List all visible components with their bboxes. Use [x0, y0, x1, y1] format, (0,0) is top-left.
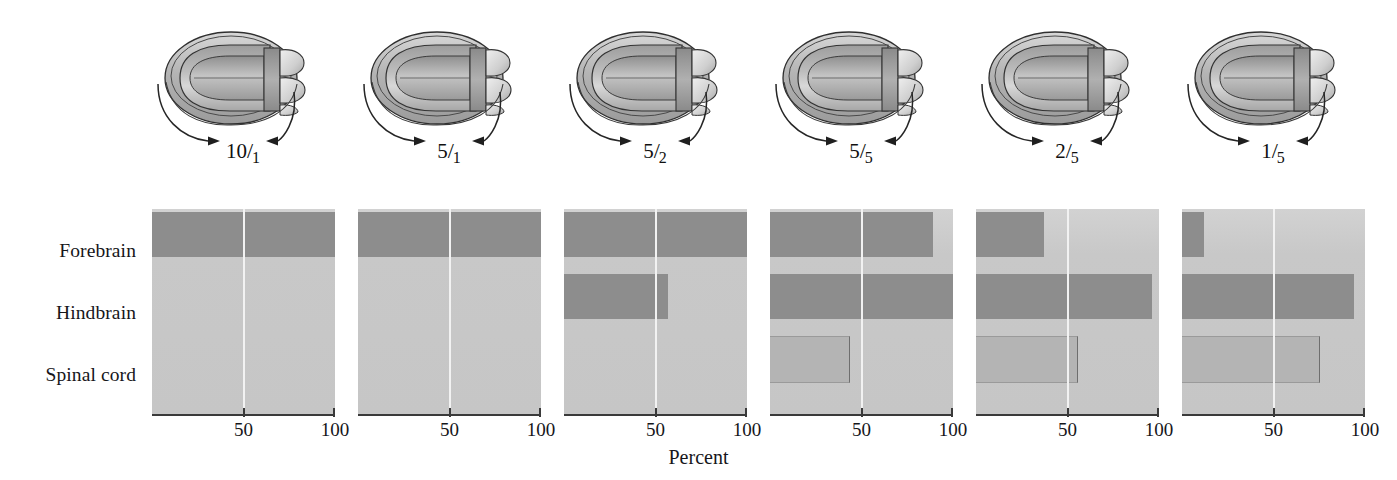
- x-axis-tick-label-50: 50: [852, 420, 871, 439]
- x-axis-tick-100: [539, 408, 541, 417]
- x-axis-tick-50: [861, 408, 863, 417]
- panel-1-over-5: 1/550100: [1182, 0, 1365, 480]
- gridline-50: [861, 209, 863, 414]
- x-axis-tick-label-100: 100: [1145, 420, 1174, 439]
- bar-forebrain: [1182, 212, 1204, 257]
- row-label-forebrain: Forebrain: [59, 241, 136, 261]
- row-label-hindbrain: Hindbrain: [56, 303, 136, 323]
- bar-chart-panel: [976, 209, 1159, 414]
- bar-chart-panel: [1182, 209, 1365, 414]
- x-axis-tick-50: [449, 408, 451, 417]
- embryo-diagram-svg: [152, 22, 335, 152]
- x-axis-tick-label-100: 100: [733, 420, 762, 439]
- panel-5-over-5: 5/550100: [770, 0, 953, 480]
- row-label-group: Forebrain Hindbrain Spinal cord: [0, 205, 146, 415]
- x-axis-tick-50: [1067, 408, 1069, 417]
- bar-spinal-cord: [770, 336, 850, 383]
- x-axis-tick-label-100: 100: [939, 420, 968, 439]
- figure-root: Forebrain Hindbrain Spinal cord: [0, 0, 1397, 480]
- x-axis-tick-label-50: 50: [1058, 420, 1077, 439]
- bar-chart-panel: [358, 209, 541, 414]
- x-axis-tick-label-100: 100: [1351, 420, 1380, 439]
- bar-forebrain: [976, 212, 1044, 257]
- axis-title: Percent: [0, 446, 1397, 469]
- embryo-diagram-svg: [564, 22, 747, 152]
- embryo-diagram: [358, 22, 541, 152]
- gridline-50: [655, 209, 657, 414]
- gridline-50: [1067, 209, 1069, 414]
- embryo-diagram: [1182, 22, 1365, 152]
- x-axis-tick-label-50: 50: [646, 420, 665, 439]
- bar-spinal-cord: [976, 336, 1078, 383]
- x-axis-tick-label-50: 50: [440, 420, 459, 439]
- panel-10-over-1: 10/150100: [152, 0, 335, 480]
- bar-chart-panel: [770, 209, 953, 414]
- x-axis-tick-label-100: 100: [527, 420, 556, 439]
- x-axis-tick-label-50: 50: [234, 420, 253, 439]
- embryo-diagram: [770, 22, 953, 152]
- embryo-diagram: [152, 22, 335, 152]
- bar-hindbrain: [1182, 274, 1354, 319]
- embryo-diagram-svg: [770, 22, 953, 152]
- bar-chart-panel: [564, 209, 747, 414]
- panel-5-over-2: 5/250100: [564, 0, 747, 480]
- x-axis-tick-100: [745, 408, 747, 417]
- x-axis-tick-50: [1273, 408, 1275, 417]
- x-axis-tick-50: [243, 408, 245, 417]
- embryo-diagram: [976, 22, 1159, 152]
- gridline-50: [243, 209, 245, 414]
- x-axis-tick-100: [333, 408, 335, 417]
- bar-hindbrain: [564, 274, 668, 319]
- embryo-diagram-svg: [358, 22, 541, 152]
- bar-hindbrain: [976, 274, 1152, 319]
- bar-forebrain: [770, 212, 933, 257]
- embryo-diagram: [564, 22, 747, 152]
- x-axis-tick-label-100: 100: [321, 420, 350, 439]
- bar-spinal-cord: [1182, 336, 1320, 383]
- bar-chart-panel: [152, 209, 335, 414]
- gridline-50: [449, 209, 451, 414]
- embryo-diagram-svg: [976, 22, 1159, 152]
- x-axis-tick-label-50: 50: [1264, 420, 1283, 439]
- x-axis-tick-100: [1363, 408, 1365, 417]
- panel-5-over-1: 5/150100: [358, 0, 541, 480]
- x-axis-tick-50: [655, 408, 657, 417]
- embryo-diagram-svg: [1182, 22, 1365, 152]
- row-label-spinal-cord: Spinal cord: [46, 365, 136, 385]
- gridline-50: [1273, 209, 1275, 414]
- x-axis-tick-100: [951, 408, 953, 417]
- panel-2-over-5: 2/550100: [976, 0, 1159, 480]
- x-axis-tick-100: [1157, 408, 1159, 417]
